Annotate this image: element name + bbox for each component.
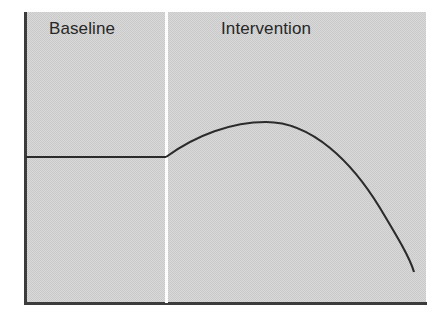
- data-trace-layer: [0, 0, 440, 326]
- single-case-design-chart: Baseline Intervention: [0, 0, 440, 326]
- intervention-data-path: [166, 122, 414, 272]
